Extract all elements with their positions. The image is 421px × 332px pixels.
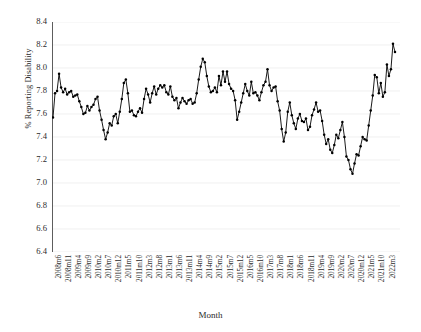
x-tick-label: 2011m10	[137, 255, 144, 282]
x-tick-label: 2015m7	[228, 255, 235, 279]
x-tick-label: 2012m8	[157, 255, 164, 279]
x-tick-label: 2018m6	[298, 255, 305, 279]
x-tick-label: 2012m3	[147, 255, 154, 279]
x-tick-label: 2009m4	[76, 255, 83, 279]
x-tick-label: 2009m9	[86, 255, 93, 279]
x-tick-label: 2008m11	[66, 255, 73, 282]
x-tick-label: 2018m11	[309, 255, 316, 282]
x-tick-label: 2010m2	[96, 255, 103, 279]
x-tick-label: 2014m9	[207, 255, 214, 279]
x-axis-tick-labels: 2008m62008m112009m42009m92010m22010m7201…	[0, 0, 421, 332]
x-tick-label: 2017m3	[268, 255, 275, 279]
x-tick-label: 2011m5	[126, 255, 133, 278]
x-tick-label: 2021m10	[379, 255, 386, 282]
x-tick-label: 2020m2	[339, 255, 346, 279]
disability-time-series-chart: % Reporting Disability 6.46.66.87.07.27.…	[0, 0, 421, 332]
x-tick-label: 2019m4	[319, 255, 326, 279]
x-tick-label: 2016m5	[248, 255, 255, 279]
x-tick-label: 2010m7	[106, 255, 113, 279]
x-tick-label: 2015m2	[217, 255, 224, 279]
x-tick-label: 2017m8	[278, 255, 285, 279]
x-tick-label: 2013m6	[177, 255, 184, 279]
x-tick-label: 2013m11	[187, 255, 194, 282]
x-tick-label: 2019m9	[329, 255, 336, 279]
x-tick-label: 2020m7	[349, 255, 356, 279]
x-tick-label: 2014m4	[197, 255, 204, 279]
x-tick-label: 2013m1	[167, 255, 174, 279]
x-tick-label: 2015m12	[238, 255, 245, 282]
x-tick-label: 2008m6	[56, 255, 63, 279]
x-tick-label: 2020m12	[359, 255, 366, 282]
x-tick-label: 2022m3	[390, 255, 397, 279]
x-tick-label: 2018m1	[288, 255, 295, 279]
x-tick-label: 2010m12	[116, 255, 123, 282]
x-tick-label: 2016m10	[258, 255, 265, 282]
x-tick-label: 2021m5	[369, 255, 376, 279]
x-axis-title: Month	[0, 310, 421, 320]
